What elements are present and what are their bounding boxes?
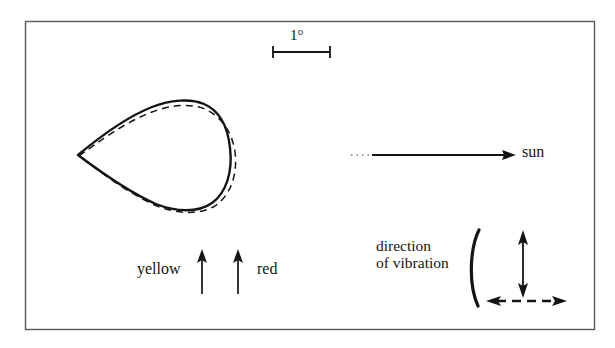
red-polarization-arrow xyxy=(233,249,243,294)
sun-label: sun xyxy=(522,143,544,161)
coma-outline-dashed xyxy=(79,105,236,212)
figure-frame xyxy=(26,22,595,330)
vibration-label: direction of vibration xyxy=(376,237,449,272)
horizontal-dashed-double-arrow xyxy=(486,296,567,306)
figure-container: 1° sun yellow red direction of vibration xyxy=(0,0,615,348)
scale-bar-label: 1° xyxy=(290,27,304,44)
horizontal-dashed-arrow-head-right xyxy=(552,296,567,306)
sun-arrow-head xyxy=(502,150,516,160)
vibration-label-line2: of vibration xyxy=(376,254,449,271)
yellow-polarization-arrow xyxy=(197,249,207,294)
yellow-label: yellow xyxy=(137,260,181,278)
coma-outline-solid xyxy=(78,100,231,210)
sun-arrow xyxy=(351,150,516,160)
vertical-double-arrow xyxy=(518,230,528,298)
figure-canvas xyxy=(0,0,615,348)
vibration-brace-icon xyxy=(471,230,479,306)
red-label: red xyxy=(257,260,277,278)
scale-bar xyxy=(273,46,330,58)
vibration-label-line1: direction xyxy=(376,237,449,254)
